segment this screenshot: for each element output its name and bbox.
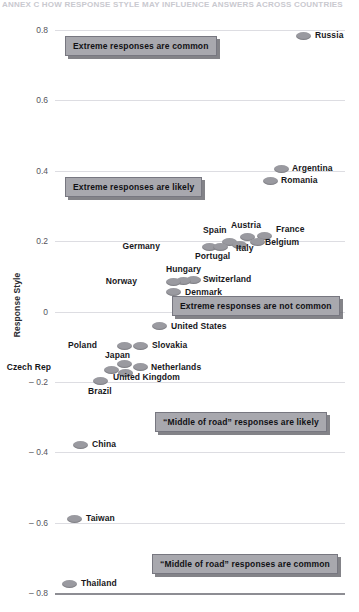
data-point-marker	[133, 342, 148, 350]
y-axis-title: Response Style	[12, 260, 22, 350]
annotation-callout: “Middle of road” responses are likely	[155, 412, 327, 432]
data-point-label: Spain	[203, 226, 227, 235]
y-tick-label: 0.8	[18, 26, 48, 35]
data-point-label: Taiwan	[86, 514, 115, 523]
data-point-label: Portugal	[195, 252, 230, 261]
annotation-callout: Extreme responses are likely	[65, 177, 202, 197]
data-point-marker	[73, 441, 88, 449]
data-point-label: Brazil	[88, 387, 112, 396]
data-point-label: China	[92, 440, 116, 449]
gridline-0.6	[55, 100, 345, 101]
data-point-marker	[93, 377, 108, 385]
data-point-label: Thailand	[81, 579, 117, 588]
data-point-marker	[62, 580, 77, 588]
data-point-label: Austria	[231, 221, 261, 230]
y-tick-label: – 0.2	[18, 378, 48, 387]
scatter-chart: 0.80.60.40.20– 0.2– 0.4– 0.6– 0.8 Respon…	[0, 0, 359, 612]
data-point-label: Italy	[236, 244, 254, 253]
data-point-label: Netherlands	[151, 363, 201, 372]
y-tick-label: – 0.8	[18, 589, 48, 598]
gridline-0.8	[55, 30, 345, 31]
data-point-label: Germany	[0, 242, 160, 251]
data-point-label: Belgium	[265, 238, 299, 247]
data-point-label: Norway	[0, 277, 137, 286]
data-point-marker	[166, 288, 181, 296]
data-point-label: Slovakia	[152, 341, 187, 350]
data-point-marker	[117, 360, 132, 368]
y-tick-label: – 0.4	[18, 448, 48, 457]
data-point-label: Argentina	[292, 164, 333, 173]
data-point-marker	[166, 278, 181, 286]
annotation-callout: “Middle of road” responses are common	[152, 554, 338, 574]
data-point-marker	[296, 32, 311, 40]
data-point-marker	[263, 177, 278, 185]
data-point-label: Poland	[0, 341, 97, 350]
data-point-label: Japan	[105, 351, 130, 360]
y-tick-label: 0	[18, 308, 48, 317]
gridline-0.4	[55, 452, 345, 453]
data-point-label: Hungary	[166, 265, 201, 274]
data-point-marker	[274, 165, 289, 173]
data-point-marker	[67, 515, 82, 523]
annotation-callout: Extreme responses are common	[65, 36, 217, 56]
gridline-0.8	[55, 593, 345, 595]
data-point-label: Russia	[315, 31, 343, 40]
annotation-callout: Extreme responses are not common	[172, 296, 340, 316]
data-point-label: Romania	[281, 176, 318, 185]
data-point-label: United Kingdom	[113, 373, 180, 382]
data-point-label: United States	[171, 322, 227, 331]
data-point-marker	[133, 363, 148, 371]
data-point-label: Switzerland	[203, 275, 251, 284]
data-point-label: France	[276, 225, 304, 234]
y-tick-label: – 0.6	[18, 519, 48, 528]
data-point-marker	[152, 322, 167, 330]
y-tick-label: 0.6	[18, 96, 48, 105]
data-point-marker	[213, 243, 228, 251]
data-point-marker	[117, 342, 132, 350]
y-tick-label: 0.4	[18, 167, 48, 176]
data-point-label: Czech Rep	[0, 363, 51, 372]
